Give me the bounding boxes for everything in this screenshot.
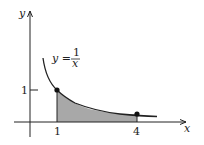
point-4-quarter <box>134 111 139 116</box>
equation-lhs: y = <box>51 52 71 65</box>
x-axis-label: x <box>184 122 191 135</box>
x-tick-label-1: 1 <box>54 125 61 138</box>
point-1-1 <box>54 87 59 92</box>
equation-denominator: x <box>72 57 79 70</box>
shaded-region <box>57 90 137 122</box>
y-tick-label-1: 1 <box>21 84 28 97</box>
y-axis-label: y <box>18 7 26 20</box>
area-under-curve-diagram: y x 1 4 1 y = 1 x <box>0 0 204 145</box>
x-tick-label-4: 4 <box>133 125 140 138</box>
